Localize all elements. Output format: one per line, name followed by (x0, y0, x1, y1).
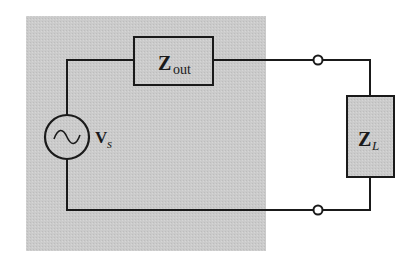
zl-label-sub: L (371, 138, 379, 153)
bottom-terminal-icon (314, 206, 323, 215)
wire-zl-to-bottom-terminal (322, 177, 370, 210)
zout-label-main: Z (158, 52, 171, 74)
wire-terminal-to-zl (322, 60, 370, 96)
output-impedance: Z out (134, 37, 213, 85)
load-impedance: Z L (347, 96, 394, 177)
zout-label-sub: out (173, 62, 191, 77)
vs-label-sub: s (107, 136, 112, 151)
top-terminal-icon (314, 56, 323, 65)
circuit-diagram: Z out Z L V s (0, 0, 419, 264)
zl-label-main: Z (358, 128, 371, 150)
